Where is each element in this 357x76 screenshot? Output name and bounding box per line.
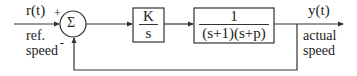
input-signal-label: r(t) [26,3,45,18]
input-label-ref: ref. [26,29,45,43]
plus-sign: + [54,7,61,19]
output-label-actual: actual [303,29,336,43]
minus-sign: - [60,37,64,49]
block-diagram: Σ + - r(t) ref. speed K s 1 (s+1)(s+p) y… [0,0,357,76]
output-label-speed: speed [303,44,335,58]
controller-numerator: K [133,9,164,24]
plant-numerator: 1 [194,9,274,24]
plant-denominator: (s+1)(s+p) [194,26,274,41]
sigma-symbol: Σ [67,16,75,30]
controller-denominator: s [133,26,164,41]
output-signal-label: y(t) [308,3,330,18]
input-label-speed: speed [26,44,58,58]
